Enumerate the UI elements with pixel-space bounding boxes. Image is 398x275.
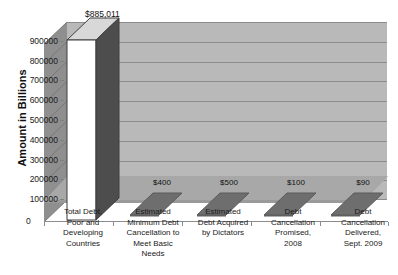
category-line: Debt [259, 207, 327, 218]
y-tick-label: 100000 [16, 195, 58, 204]
bar-total-debt [67, 18, 119, 222]
bar-chart: Amount in Billions [0, 0, 398, 275]
category-label-total-debt: Total Debt, Poor and Developing Countrie… [48, 207, 118, 275]
category-line: 2008 [259, 239, 327, 250]
y-tick-label-zero: 0 [26, 216, 31, 226]
x-axis-category-labels: Total Debt, Poor and Developing Countrie… [48, 207, 398, 275]
category-label-min-cancellation: Estimated Minimum Debt Cancellation to M… [118, 207, 188, 275]
category-line: Cancellation to [119, 228, 187, 239]
category-line: by Dictators [189, 228, 257, 239]
category-line: Debt Acquired [189, 218, 257, 229]
y-tick-label: 800000 [16, 57, 58, 66]
y-tick-label: 300000 [16, 156, 58, 165]
category-label-delivered-2009: Debt Cancellation Delivered, Sept. 2009 [328, 207, 398, 275]
category-label-dictator-debt: Estimated Debt Acquired by Dictators [188, 207, 258, 275]
category-line: Total Debt, [49, 207, 117, 218]
data-label-dictator-debt: $500 [210, 178, 248, 187]
category-line: Promised, [259, 228, 327, 239]
category-line: Poor and [49, 218, 117, 229]
category-line: Debt [329, 207, 397, 218]
data-label-promised-2008: $100 [277, 178, 315, 187]
category-line: Countries [49, 239, 117, 250]
category-line: Estimated [189, 207, 257, 218]
category-line: Cancellation [329, 218, 397, 229]
category-line: Estimated [119, 207, 187, 218]
data-label-delivered-2009: $90 [344, 178, 382, 187]
category-line: Developing [49, 228, 117, 239]
y-tick-label: 600000 [16, 96, 58, 105]
y-tick-label: 500000 [16, 116, 58, 125]
data-label-min-cancellation: $400 [143, 178, 181, 187]
category-line: Meet Basic [119, 239, 187, 250]
category-line: Minimum Debt [119, 218, 187, 229]
category-line: Needs [119, 249, 187, 260]
y-tick-label: 200000 [16, 175, 58, 184]
y-tick-label: 900000 [16, 37, 58, 46]
data-label-total-debt: $885,011 [84, 10, 121, 19]
category-line: Sept. 2009 [329, 239, 397, 250]
category-line: Cancellation [259, 218, 327, 229]
y-tick-label: 400000 [16, 136, 58, 145]
category-label-promised-2008: Debt Cancellation Promised, 2008 [258, 207, 328, 275]
category-line: Delivered, [329, 228, 397, 239]
y-tick-label: 700000 [16, 76, 58, 85]
